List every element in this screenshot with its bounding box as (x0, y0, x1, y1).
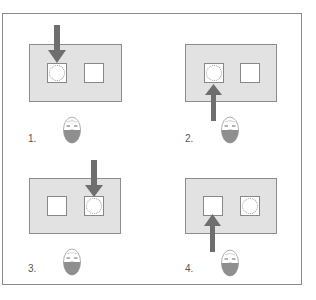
step-1-face-icon (63, 117, 81, 144)
diagram-overlay (0, 0, 316, 300)
step-2-face-icon (221, 117, 239, 144)
step-3-down-arrow-icon (85, 160, 103, 197)
step-3-face-icon (63, 249, 81, 276)
step-4-face-icon (221, 250, 239, 277)
step-4-up-arrow-icon (204, 214, 221, 252)
step-1-down-arrow-icon (48, 25, 66, 63)
step-2-up-arrow-icon (205, 84, 222, 121)
